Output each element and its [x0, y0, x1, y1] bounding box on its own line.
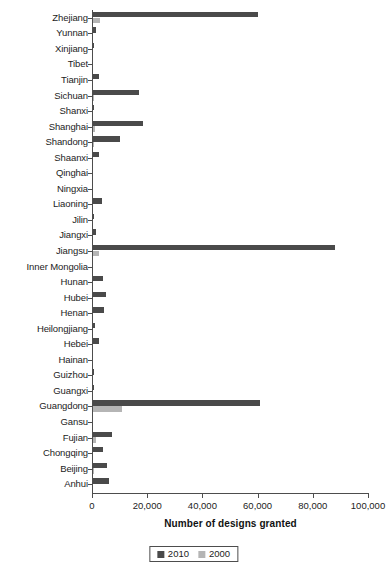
bar-2010	[92, 338, 99, 343]
chart-row: Fujian	[0, 430, 387, 446]
bar-group	[92, 260, 368, 273]
chart-row: Chongqing	[0, 445, 387, 461]
x-axis-line	[92, 493, 369, 494]
y-axis-tick-label: Gansu	[2, 417, 88, 427]
y-axis-tick-label: Guangdong	[2, 401, 88, 411]
chart-row: Hubei	[0, 290, 387, 306]
bar-chart-figure: ZhejiangYunnanXinjiangTibetTianjinSichua…	[0, 0, 387, 581]
bar-group	[92, 198, 368, 211]
bar-group	[92, 462, 368, 475]
y-axis-tick-label: Yunnan	[2, 28, 88, 38]
chart-row: Shanghai	[0, 119, 387, 135]
y-axis-tick-label: Beijing	[2, 464, 88, 474]
chart-row: Tibet	[0, 57, 387, 73]
bar-2010	[92, 400, 260, 405]
x-axis-tick-label: 60,000	[243, 500, 272, 511]
y-axis-tick-label: Hebei	[2, 339, 88, 349]
y-axis-tick-label: Fujian	[2, 433, 88, 443]
x-axis-tick-mark	[313, 494, 314, 498]
x-axis-tick-mark	[202, 494, 203, 498]
y-axis-tick-label: Qinghai	[2, 168, 88, 178]
bar-group	[92, 11, 368, 24]
bar-group	[92, 369, 368, 382]
bar-2010	[92, 136, 120, 141]
bar-2010	[92, 12, 258, 17]
chart-row: Henan	[0, 305, 387, 321]
legend-swatch-icon	[157, 551, 164, 558]
x-axis-tick-label: 0	[89, 500, 94, 511]
bar-group	[92, 447, 368, 460]
chart-row: Sichuan	[0, 88, 387, 104]
x-axis-tick-mark	[92, 494, 93, 498]
x-axis-tick-mark	[368, 494, 369, 498]
chart-row: Shaanxi	[0, 150, 387, 166]
legend-label: 2000	[209, 549, 230, 559]
x-axis-tick-mark	[258, 494, 259, 498]
bar-group	[92, 167, 368, 180]
bar-2010	[92, 198, 102, 203]
bar-group	[92, 338, 368, 351]
bar-group	[92, 229, 368, 242]
x-axis-tick-mark	[147, 494, 148, 498]
bar-group	[92, 151, 368, 164]
x-axis-tick-label: 40,000	[188, 500, 217, 511]
bar-group	[92, 182, 368, 195]
chart-row: Shandong	[0, 134, 387, 150]
y-axis-tick-label: Shanghai	[2, 122, 88, 132]
y-axis-tick-label: Inner Mongolia	[2, 262, 88, 272]
x-axis-tick-label: 20,000	[133, 500, 162, 511]
bar-group	[92, 136, 368, 149]
chart-row: Jiangsu	[0, 243, 387, 259]
bar-group	[92, 42, 368, 55]
legend-label: 2010	[168, 549, 189, 559]
chart-row: Guangxi	[0, 383, 387, 399]
bar-group	[92, 385, 368, 398]
bar-2010	[92, 432, 112, 437]
chart-row: Guizhou	[0, 368, 387, 384]
bar-group	[92, 478, 368, 491]
plot-area: ZhejiangYunnanXinjiangTibetTianjinSichua…	[0, 10, 387, 497]
x-axis-tick-label: 80,000	[298, 500, 327, 511]
chart-row: Inner Mongolia	[0, 259, 387, 275]
y-axis-tick-label: Jiangsu	[2, 246, 88, 256]
legend-swatch-icon	[198, 551, 205, 558]
legend-entry: 2000	[198, 549, 230, 559]
bar-group	[92, 58, 368, 71]
y-axis-tick-label: Guizhou	[2, 370, 88, 380]
y-axis-tick-label: Hunan	[2, 277, 88, 287]
chart-row: Zhejiang	[0, 10, 387, 26]
bar-group	[92, 89, 368, 102]
y-axis-tick-label: Liaoning	[2, 199, 88, 209]
y-axis-tick-label: Ningxia	[2, 184, 88, 194]
bar-group	[92, 431, 368, 444]
x-axis-title: Number of designs granted	[92, 518, 369, 529]
chart-row: Qinghai	[0, 165, 387, 181]
bar-2010	[92, 276, 103, 281]
bar-group	[92, 120, 368, 133]
chart-row: Shanxi	[0, 103, 387, 119]
chart-row: Xinjiang	[0, 41, 387, 57]
chart-row: Ningxia	[0, 181, 387, 197]
bar-group	[92, 245, 368, 258]
bar-group	[92, 400, 368, 413]
y-axis-tick-label: Hainan	[2, 355, 88, 365]
bar-group	[92, 291, 368, 304]
bar-group	[92, 353, 368, 366]
chart-row: Anhui	[0, 476, 387, 492]
y-axis-tick-label: Shaanxi	[2, 153, 88, 163]
bar-group	[92, 276, 368, 289]
bar-2010	[92, 245, 335, 250]
bar-group	[92, 416, 368, 429]
y-axis-line	[92, 10, 93, 493]
chart-row: Tianjin	[0, 72, 387, 88]
y-axis-tick-label: Shandong	[2, 137, 88, 147]
y-axis-tick-label: Guangxi	[2, 386, 88, 396]
bar-2010	[92, 307, 104, 312]
bar-2000	[92, 251, 99, 256]
bar-2000	[92, 406, 122, 411]
bar-2010	[92, 447, 103, 452]
chart-row: Hebei	[0, 336, 387, 352]
y-axis-tick-label: Anhui	[2, 479, 88, 489]
x-axis-tick-label: 100,000	[351, 500, 385, 511]
y-axis-tick-label: Henan	[2, 308, 88, 318]
